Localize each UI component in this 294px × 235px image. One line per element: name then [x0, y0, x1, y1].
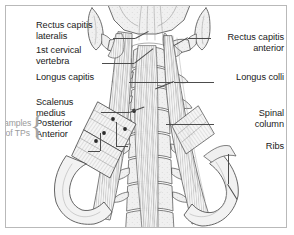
examples-of-tps-brace: { [30, 110, 44, 140]
label-ribs: Ribs [266, 141, 284, 152]
figure-frame: Rectus capitis lateralis 1st cervical ve… [5, 5, 287, 228]
occiput-group [106, 6, 192, 34]
leader-first-cervical-vertebra [102, 63, 134, 64]
label-rectus-capitis-lateralis-line1: Rectus capitis [36, 20, 93, 31]
label-rectus-capitis-lateralis: Rectus capitis lateralis [36, 20, 93, 41]
label-longus-capitis-line1: Longus capitis [36, 72, 94, 83]
label-longus-colli-line1: Longus colli [236, 72, 284, 83]
label-rectus-capitis-lateralis-line2: lateralis [36, 31, 93, 42]
label-first-cervical-vertebra: 1st cervical vertebra [36, 45, 81, 66]
leader-posterior-h [116, 146, 128, 147]
leader-anterior-h [88, 151, 100, 152]
leader-anterior-v [100, 133, 101, 151]
label-first-cervical-vertebra-line1: 1st cervical [36, 45, 81, 56]
label-examples-of-tps: Examples of TPs [5, 118, 30, 138]
leader-longus-colli [174, 82, 214, 83]
label-rectus-capitis-anterior-line1: Rectus capitis [228, 32, 285, 43]
label-spinal-column: Spinal column [255, 108, 284, 129]
leader-rectus-capitis-anterior [188, 38, 211, 39]
leader-rectus-capitis-lateralis [113, 38, 135, 39]
leader-posterior-v [116, 122, 117, 146]
label-longus-colli: Longus colli [236, 72, 284, 83]
label-longus-capitis: Longus capitis [36, 72, 94, 83]
anatomy-figure: Rectus capitis lateralis 1st cervical ve… [0, 0, 294, 235]
label-scalenus-medius-line1: Scalenus [36, 97, 73, 108]
label-examples-of-tps-line2: of TPs [5, 128, 30, 138]
label-rectus-capitis-anterior: Rectus capitis anterior [228, 32, 285, 53]
label-rectus-capitis-anterior-line2: anterior [228, 43, 285, 54]
label-spinal-column-line2: column [255, 119, 284, 130]
label-examples-of-tps-line1: Examples [5, 118, 30, 128]
leader-scalenus-medius [101, 112, 129, 113]
leader-ribs-v [228, 154, 229, 184]
label-spinal-column-line1: Spinal [255, 108, 284, 119]
label-ribs-line1: Ribs [266, 141, 284, 152]
leader-spinal-column [166, 124, 214, 125]
label-first-cervical-vertebra-line2: vertebra [36, 56, 81, 67]
